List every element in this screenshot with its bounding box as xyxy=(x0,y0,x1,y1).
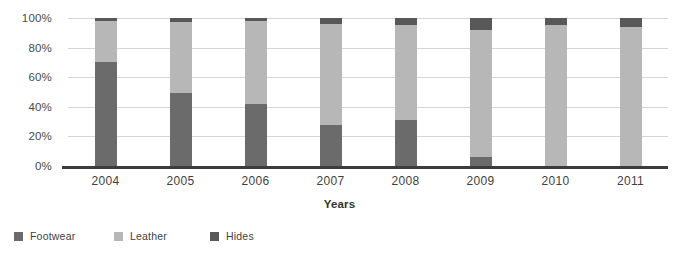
x-tick-label: 2009 xyxy=(467,174,495,188)
bar-segment-footwear[interactable] xyxy=(395,120,417,166)
bar-segment-leather[interactable] xyxy=(470,30,492,157)
legend-label: Footwear xyxy=(30,230,75,242)
bar-segment-leather[interactable] xyxy=(170,22,192,93)
y-tick-label: 60% xyxy=(28,71,52,83)
plot-area xyxy=(68,18,668,166)
bar-group[interactable] xyxy=(470,18,492,166)
y-axis: 0%20%40%60%80%100% xyxy=(0,18,60,166)
bar-group[interactable] xyxy=(170,18,192,166)
bar-segment-footwear[interactable] xyxy=(320,125,342,166)
bar-segment-hides[interactable] xyxy=(395,18,417,25)
legend-swatch-icon xyxy=(114,232,123,241)
bar-stack xyxy=(395,18,417,166)
x-axis-labels: 20042005200620072008200920102011 xyxy=(68,174,668,194)
bar-stack xyxy=(620,18,642,166)
x-tick-label: 2010 xyxy=(542,174,570,188)
bar-segment-footwear[interactable] xyxy=(245,104,267,166)
legend-label: Hides xyxy=(226,230,254,242)
bar-stack xyxy=(320,18,342,166)
bar-segment-footwear[interactable] xyxy=(95,62,117,166)
legend-label: Leather xyxy=(130,230,167,242)
bar-segment-leather[interactable] xyxy=(545,25,567,166)
bar-series-container xyxy=(68,18,668,166)
bar-group[interactable] xyxy=(320,18,342,166)
x-axis-title: Years xyxy=(0,198,679,210)
y-tick-label: 40% xyxy=(28,101,52,113)
legend-item-leather[interactable]: Leather xyxy=(114,230,167,242)
bar-stack xyxy=(95,18,117,166)
x-axis-line xyxy=(62,166,668,169)
x-tick-label: 2007 xyxy=(317,174,345,188)
y-tick-label: 0% xyxy=(35,160,52,172)
bar-stack xyxy=(170,18,192,166)
stacked-bar-chart: 0%20%40%60%80%100% 200420052006200720082… xyxy=(0,0,679,260)
x-tick-label: 2005 xyxy=(167,174,195,188)
y-tick-label: 100% xyxy=(22,12,52,24)
x-tick-label: 2011 xyxy=(617,174,644,188)
bar-segment-hides[interactable] xyxy=(470,18,492,30)
legend-swatch-icon xyxy=(210,232,219,241)
y-tick-label: 80% xyxy=(28,42,52,54)
bar-group[interactable] xyxy=(245,18,267,166)
x-tick-label: 2006 xyxy=(242,174,270,188)
bar-segment-hides[interactable] xyxy=(620,18,642,27)
legend-swatch-icon xyxy=(14,232,23,241)
bar-segment-leather[interactable] xyxy=(395,25,417,120)
bar-segment-footwear[interactable] xyxy=(470,157,492,166)
legend-item-footwear[interactable]: Footwear xyxy=(14,230,75,242)
legend-item-hides[interactable]: Hides xyxy=(210,230,254,242)
bar-stack xyxy=(245,18,267,166)
bar-segment-footwear[interactable] xyxy=(170,93,192,166)
bar-segment-leather[interactable] xyxy=(320,24,342,125)
x-tick-label: 2004 xyxy=(92,174,120,188)
bar-segment-leather[interactable] xyxy=(620,27,642,166)
bar-group[interactable] xyxy=(395,18,417,166)
x-tick-label: 2008 xyxy=(392,174,420,188)
bar-segment-leather[interactable] xyxy=(95,21,117,62)
bar-segment-leather[interactable] xyxy=(245,21,267,104)
y-tick-label: 20% xyxy=(28,130,52,142)
bar-stack xyxy=(470,18,492,166)
bar-group[interactable] xyxy=(620,18,642,166)
bar-group[interactable] xyxy=(545,18,567,166)
bar-stack xyxy=(545,18,567,166)
bar-segment-hides[interactable] xyxy=(545,18,567,25)
bar-group[interactable] xyxy=(95,18,117,166)
